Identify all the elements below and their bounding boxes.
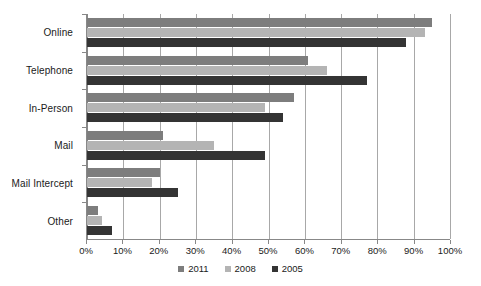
bar-row xyxy=(87,141,450,150)
bar-2005-other xyxy=(87,226,112,235)
x-axis-tick-label: 50% xyxy=(258,245,277,257)
x-axis-tick xyxy=(414,240,415,244)
plot-area xyxy=(86,14,450,240)
bar-2008-mail xyxy=(87,141,214,150)
bar-2008-mail-intercept xyxy=(87,178,152,187)
bar-group xyxy=(87,89,450,127)
x-axis-tick-label: 40% xyxy=(222,245,241,257)
bar-row xyxy=(87,66,450,75)
y-axis-label: In-Person xyxy=(0,89,80,127)
bar-row xyxy=(87,226,450,235)
x-axis-tick xyxy=(232,240,233,244)
bar-2011-mail xyxy=(87,131,163,140)
bar-2011-telephone xyxy=(87,56,308,65)
bar-row xyxy=(87,206,450,215)
bar-group xyxy=(87,14,450,52)
x-axis-tick-label: 0% xyxy=(79,245,93,257)
x-axis-tick-label: 20% xyxy=(149,245,168,257)
y-axis-tick xyxy=(82,52,86,53)
legend-label: 2011 xyxy=(188,263,208,274)
y-axis-label: Telephone xyxy=(0,52,80,90)
x-axis-tick-label: 60% xyxy=(295,245,314,257)
bar-2008-other xyxy=(87,216,102,225)
bar-row xyxy=(87,93,450,102)
x-axis-tick-label: 70% xyxy=(331,245,350,257)
x-axis-tick-label: 30% xyxy=(186,245,205,257)
bar-2011-in-person xyxy=(87,93,294,102)
legend-label: 2005 xyxy=(282,263,303,274)
legend-label: 2008 xyxy=(235,263,256,274)
bar-2005-mail xyxy=(87,151,265,160)
bar-2011-other xyxy=(87,206,98,215)
bar-group xyxy=(87,202,450,240)
x-axis-ticks xyxy=(86,240,450,244)
x-axis-tick xyxy=(122,240,123,244)
legend-item-2005[interactable]: 2005 xyxy=(272,263,303,274)
chart-plot-wrapper: OnlineTelephoneIn-PersonMailMail Interce… xyxy=(0,0,481,286)
y-axis-ticks xyxy=(86,14,87,240)
bar-row xyxy=(87,113,450,122)
x-axis-tick xyxy=(195,240,196,244)
bar-2011-online xyxy=(87,18,432,27)
bar-row xyxy=(87,56,450,65)
y-axis-label: Mail Intercept xyxy=(0,165,80,203)
bar-2005-telephone xyxy=(87,76,367,85)
bar-row xyxy=(87,28,450,37)
bar-group xyxy=(87,52,450,90)
x-axis-tick xyxy=(159,240,160,244)
bar-2008-online xyxy=(87,28,425,37)
y-axis-label: Mail xyxy=(0,127,80,165)
legend-swatch-icon xyxy=(178,266,184,272)
x-axis-tick xyxy=(304,240,305,244)
bar-row xyxy=(87,18,450,27)
x-axis-tick xyxy=(86,240,87,244)
bar-row xyxy=(87,188,450,197)
x-axis-tick xyxy=(450,240,451,244)
x-axis-tick-label: 90% xyxy=(404,245,423,257)
legend-item-2008[interactable]: 2008 xyxy=(225,263,256,274)
bar-group xyxy=(87,164,450,202)
bar-chart: OnlineTelephoneIn-PersonMailMail Interce… xyxy=(0,0,481,286)
bar-row xyxy=(87,76,450,85)
bar-row xyxy=(87,38,450,47)
bar-2005-online xyxy=(87,38,406,47)
y-axis-category-labels: OnlineTelephoneIn-PersonMailMail Interce… xyxy=(0,14,80,240)
gridline xyxy=(450,14,451,239)
y-axis-tick xyxy=(82,127,86,128)
bar-row xyxy=(87,151,450,160)
legend-swatch-icon xyxy=(272,266,278,272)
bar-row xyxy=(87,216,450,225)
y-axis-tick xyxy=(82,14,86,15)
legend-swatch-icon xyxy=(225,266,231,272)
bar-2008-in-person xyxy=(87,103,265,112)
y-axis-label: Online xyxy=(0,14,80,52)
x-axis-tick-label: 100% xyxy=(438,245,462,257)
x-axis-tick xyxy=(341,240,342,244)
y-axis-tick xyxy=(82,165,86,166)
chart-legend: 201120082005 xyxy=(0,263,481,274)
bar-2005-in-person xyxy=(87,113,283,122)
y-axis-tick xyxy=(82,89,86,90)
x-axis-tick-labels: 0%10%20%30%40%50%60%70%80%90%100% xyxy=(86,245,450,259)
bar-row xyxy=(87,103,450,112)
bar-2011-mail-intercept xyxy=(87,168,160,177)
bar-2008-telephone xyxy=(87,66,327,75)
bar-row xyxy=(87,178,450,187)
y-axis-tick xyxy=(82,202,86,203)
x-axis-tick-label: 80% xyxy=(368,245,387,257)
bar-groups xyxy=(87,14,450,239)
x-axis-tick xyxy=(268,240,269,244)
bar-2005-mail-intercept xyxy=(87,188,178,197)
legend-item-2011[interactable]: 2011 xyxy=(178,263,208,274)
x-axis-tick xyxy=(377,240,378,244)
y-axis-label: Other xyxy=(0,202,80,240)
x-axis-tick-label: 10% xyxy=(113,245,132,257)
bar-row xyxy=(87,131,450,140)
bar-row xyxy=(87,168,450,177)
bar-group xyxy=(87,127,450,165)
